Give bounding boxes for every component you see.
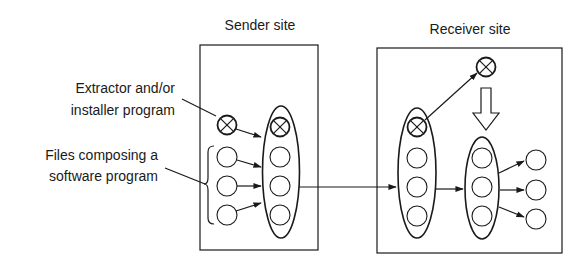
receiver-package-file-node-1 [407,148,427,168]
sender-file-node-1 [217,147,237,167]
output-arrow-3 [499,207,524,217]
sender-file-node-3 [217,205,237,225]
sender-site-title: Sender site [225,17,296,33]
receiver-package-file-node-2 [407,177,427,197]
files-label-line1: Files composing a [45,147,158,163]
receiver-package-file-node-3 [407,206,427,226]
files-leader-line [165,168,205,184]
extractor-leader-line [182,99,216,116]
installed-file-node-1 [472,148,492,168]
software-distribution-diagram: Sender site Receiver site Extractor and/… [0,0,588,267]
files-brace [204,146,214,224]
package-file-node-1 [270,147,290,167]
output-arrow-1 [499,161,524,173]
output-file-node-1 [526,150,546,170]
sender-arrow-file-1 [237,160,261,167]
sender-extractor-node [218,116,237,135]
package-file-node-3 [270,205,290,225]
output-file-node-3 [526,209,546,229]
installed-file-node-3 [472,206,492,226]
running-extractor-node [477,58,496,77]
extract-arrow [425,73,477,120]
installed-file-node-2 [472,177,492,197]
hollow-down-arrow [473,88,499,130]
files-label-line2: software program [49,168,158,184]
extractor-label-line2: installer program [71,102,175,118]
extractor-label-line1: Extractor and/or [75,80,175,96]
sender-file-node-2 [217,176,237,196]
sender-arrow-file-3 [236,203,261,211]
receiver-site-title: Receiver site [430,21,511,37]
output-file-node-2 [526,180,546,200]
receiver-package-extractor-node [408,118,427,137]
package-extractor-node [271,118,290,137]
package-file-node-2 [270,176,290,196]
sender-arrow-extractor [236,129,261,137]
